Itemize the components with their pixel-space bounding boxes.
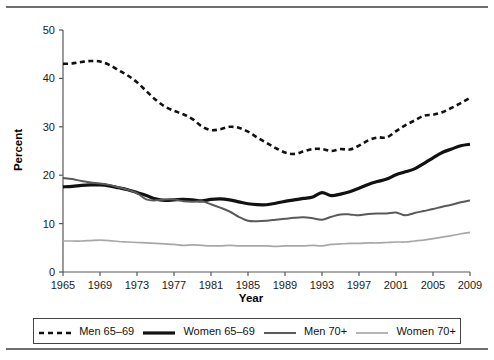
legend-label: Men 70+ [304,325,347,337]
y-tick-label: 0 [49,266,55,278]
legend-item[interactable]: Men 65–69 [36,325,136,337]
series-line-2 [63,178,470,221]
x-tick-label: 1981 [199,279,223,291]
series-line-0 [63,61,470,154]
x-tick-label: 2001 [384,279,408,291]
series-line-1 [63,144,470,205]
series-group [63,61,470,246]
line-chart: 01020304050 1965196919731977198119851989… [0,10,494,315]
y-tick-label: 20 [43,169,55,181]
x-tick-label: 1985 [236,279,260,291]
y-tick-label: 40 [43,72,55,84]
x-tick-label: 1989 [273,279,297,291]
legend-label: Men 65–69 [79,325,134,337]
bottom-rule [6,348,488,350]
legend-swatch-icon [355,325,389,337]
y-axis-title: Percent [12,129,24,171]
x-tick-label: 1993 [310,279,334,291]
x-tick-label: 2005 [421,279,445,291]
x-tick-label: 1973 [125,279,149,291]
x-tick-label: 2009 [458,279,482,291]
legend-swatch-icon [142,325,176,337]
x-tick-label: 1965 [51,279,75,291]
legend-label: Women 65–69 [183,325,254,337]
top-rule [6,6,488,8]
x-axis-title: Year [239,292,264,304]
y-tick-label: 50 [43,24,55,36]
legend-swatch-icon [263,325,297,337]
x-tick-label: 1969 [88,279,112,291]
figure-container: 01020304050 1965196919731977198119851989… [0,0,494,360]
x-tick-label: 1977 [162,279,186,291]
legend-item[interactable]: Men 70+ [261,325,349,337]
y-axis-ticks: 01020304050 [43,24,63,278]
legend-label: Women 70+ [396,325,455,337]
legend-swatch-icon [38,325,72,337]
x-tick-label: 1997 [347,279,371,291]
y-tick-label: 30 [43,121,55,133]
legend-item[interactable]: Women 65–69 [140,325,256,337]
legend-item[interactable]: Women 70+ [353,325,457,337]
x-axis-ticks: 1965196919731977198119851989199319972001… [51,272,482,291]
chart-legend: Men 65–69Women 65–69Men 70+Women 70+ [33,318,461,344]
series-line-3 [63,232,470,246]
y-tick-label: 10 [43,218,55,230]
